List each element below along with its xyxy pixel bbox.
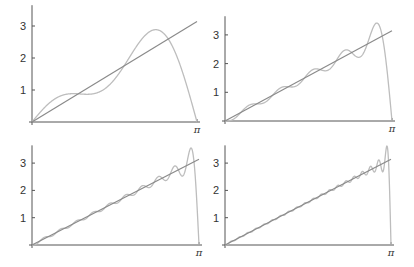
y-tick-label: 2 bbox=[213, 58, 219, 70]
y-tick-label: 1 bbox=[20, 212, 26, 224]
plot-bottom-right: 123π bbox=[213, 145, 395, 258]
x-tick-label-pi: π bbox=[388, 123, 396, 134]
y-tick-label: 2 bbox=[213, 184, 219, 196]
y-tick-label: 3 bbox=[20, 157, 26, 169]
y-tick-label: 1 bbox=[213, 212, 219, 224]
identity-line bbox=[32, 159, 199, 245]
figure: 123π 123π 123π 123π bbox=[0, 0, 414, 267]
fourier-partial-sum-curve bbox=[225, 146, 391, 245]
plot-top-right: 123π bbox=[213, 16, 396, 134]
y-tick-label: 1 bbox=[20, 84, 26, 96]
y-tick-label: 3 bbox=[213, 29, 219, 41]
plot-top-left: 123π bbox=[20, 5, 201, 135]
y-tick-label: 3 bbox=[20, 20, 26, 32]
x-tick-label-pi: π bbox=[195, 247, 203, 258]
identity-line bbox=[225, 159, 391, 245]
y-tick-label: 1 bbox=[213, 86, 219, 98]
identity-line bbox=[32, 21, 197, 122]
plot-bottom-left: 123π bbox=[20, 145, 203, 258]
fourier-partial-sum-curve bbox=[32, 148, 199, 245]
x-tick-label-pi: π bbox=[387, 247, 395, 258]
y-tick-label: 3 bbox=[213, 157, 219, 169]
identity-line bbox=[225, 31, 392, 121]
x-tick-label-pi: π bbox=[193, 124, 201, 135]
y-tick-label: 2 bbox=[20, 184, 26, 196]
fourier-partial-sum-curve bbox=[32, 30, 197, 122]
y-tick-label: 2 bbox=[20, 52, 26, 64]
fourier-partial-sum-curve bbox=[225, 23, 392, 121]
